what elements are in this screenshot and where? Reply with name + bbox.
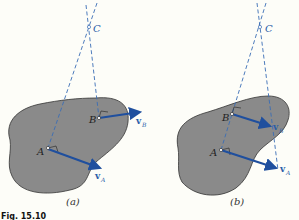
label-va: v [279,164,286,174]
label-c: C [265,23,273,34]
panel-a: C A B v A v B (a) [9,3,147,207]
point-a [46,146,49,149]
label-va-sub: A [100,176,106,183]
label-va-sub: A [285,169,291,176]
label-a: A [36,146,44,157]
label-a: A [209,147,217,158]
label-vb: v [135,116,142,126]
label-vb-sub: B [141,121,147,128]
rigid-body-a [9,98,128,193]
label-b: B [88,114,96,125]
label-vb-sub: B [278,127,284,134]
panel-label-a: (a) [66,196,80,207]
label-vb: v [272,122,279,132]
panel-b: C A B v B v A (b) [177,3,291,207]
instantaneous-center-diagram: C A B v A v B (a) C A B v B v A (b) [0,0,299,220]
point-b [230,112,233,115]
label-b: B [221,112,229,123]
point-c [258,25,261,28]
point-b [97,116,100,119]
panel-label-b: (b) [230,196,244,207]
point-c [87,25,90,28]
point-a [219,148,222,151]
label-va: v [94,171,101,181]
figure-caption: Fig. 15.10 [1,212,46,220]
label-c: C [93,23,101,34]
